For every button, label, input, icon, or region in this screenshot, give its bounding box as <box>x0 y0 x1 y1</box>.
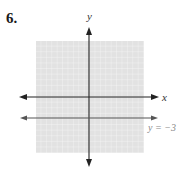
arrow-down-icon <box>86 159 92 167</box>
y-axis-label: y <box>86 10 92 22</box>
arrow-right-icon <box>151 94 159 100</box>
arrow-left-icon <box>19 94 27 100</box>
coordinate-plane: y x y = −3 <box>0 0 189 176</box>
arrow-up-icon <box>86 27 92 35</box>
arrow-right-icon <box>151 116 158 121</box>
arrow-left-icon <box>20 116 27 121</box>
line-label: y = −3 <box>147 122 176 133</box>
x-axis-label: x <box>161 91 167 103</box>
